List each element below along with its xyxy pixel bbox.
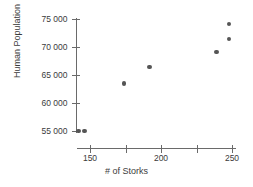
y-tick-75000 bbox=[72, 19, 80, 20]
data-point-4 bbox=[214, 50, 219, 55]
scatter-plot: 55 00060 00065 00070 00075 000150200250 bbox=[0, 0, 253, 187]
x-axis-title: # of Storks bbox=[0, 166, 253, 176]
data-point-3 bbox=[147, 65, 152, 70]
y-tick-label-60000: 60 000 bbox=[22, 98, 68, 108]
data-point-0 bbox=[76, 129, 81, 134]
x-tick-200 bbox=[161, 145, 162, 153]
y-axis-title: Human Population bbox=[12, 0, 22, 96]
x-tick-label-250: 250 bbox=[217, 153, 247, 163]
y-tick-label-75000: 75 000 bbox=[22, 14, 68, 24]
data-point-1 bbox=[82, 129, 87, 134]
x-tick-label-150: 150 bbox=[75, 153, 105, 163]
x-tick-250 bbox=[232, 145, 233, 153]
x-minor-tick-175 bbox=[126, 145, 127, 153]
y-tick-label-70000: 70 000 bbox=[22, 42, 68, 52]
x-minor-tick-225 bbox=[197, 145, 198, 153]
y-tick-70000 bbox=[72, 47, 80, 48]
y-tick-60000 bbox=[72, 103, 80, 104]
y-tick-label-55000: 55 000 bbox=[22, 126, 68, 136]
y-tick-label-65000: 65 000 bbox=[22, 70, 68, 80]
x-tick-label-200: 200 bbox=[146, 153, 176, 163]
data-point-2 bbox=[122, 81, 127, 86]
x-axis-line bbox=[77, 148, 236, 149]
data-point-6 bbox=[227, 22, 232, 27]
x-tick-150 bbox=[90, 145, 91, 153]
y-tick-65000 bbox=[72, 75, 80, 76]
data-point-5 bbox=[227, 37, 232, 42]
